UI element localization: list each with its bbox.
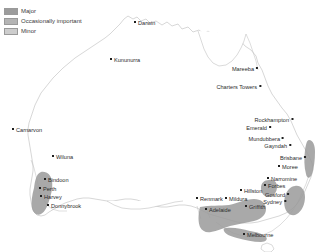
map-graphic xyxy=(0,0,325,252)
city-label: Melbourne xyxy=(247,232,273,238)
city-gosford: Gosford xyxy=(265,191,289,198)
city-marker-dot xyxy=(269,126,271,128)
city-label: Kununurra xyxy=(114,57,140,63)
city-griffith: Griffith xyxy=(245,203,265,210)
city-marker-dot xyxy=(196,197,198,199)
city-brisbane: Brisbane xyxy=(280,154,306,161)
city-label: Hillston xyxy=(244,188,262,194)
city-label: Moree xyxy=(282,164,298,170)
city-carnarvon: Carnarvon xyxy=(12,126,42,133)
city-sydney: Sydney xyxy=(263,198,286,205)
legend-label-major: Major xyxy=(21,8,36,15)
australia-map: Major Occasionally important Minor Darwi… xyxy=(0,0,325,252)
city-marker-dot xyxy=(256,67,258,69)
city-label: Donnybrook xyxy=(51,203,81,209)
city-marker-dot xyxy=(291,118,293,120)
city-label: Mareeba xyxy=(232,66,254,72)
city-kununurra: Kununurra xyxy=(110,56,140,63)
city-marker-dot xyxy=(304,156,306,158)
legend-label-minor: Minor xyxy=(21,28,36,35)
city-rockhampton: Rockhampton xyxy=(254,116,293,123)
legend-item-major: Major xyxy=(4,7,82,16)
city-label: Wiluna xyxy=(56,154,73,160)
legend-label-occasionally-important: Occasionally important xyxy=(21,18,82,25)
city-marker-dot xyxy=(264,184,266,186)
city-label: Harvey xyxy=(44,194,62,200)
city-marker-dot xyxy=(287,193,289,195)
city-marker-dot xyxy=(289,144,291,146)
city-label: Darwin xyxy=(138,20,155,26)
legend-swatch-minor xyxy=(4,28,18,35)
city-label: Gayndah xyxy=(264,143,287,149)
city-marker-dot xyxy=(282,137,284,139)
city-marker-dot xyxy=(245,205,247,207)
city-mundubbera: Mundubbera xyxy=(249,135,284,142)
city-label: Brisbane xyxy=(280,155,302,161)
legend-swatch-major xyxy=(4,8,18,15)
city-mareeba: Mareeba xyxy=(232,65,258,72)
city-marker-dot xyxy=(243,233,245,235)
city-label: Rockhampton xyxy=(254,117,289,123)
city-narromine: Narromine xyxy=(267,175,297,182)
city-donnybrook: Donnybrook xyxy=(47,202,81,209)
city-mildura: Mildura xyxy=(225,195,247,202)
city-label: Renmark xyxy=(200,196,223,202)
legend: Major Occasionally important Minor xyxy=(4,7,82,37)
city-label: Narromine xyxy=(271,176,297,182)
city-charters-towers: Charters Towers xyxy=(216,83,261,90)
city-marker-dot xyxy=(44,178,46,180)
city-label: Charters Towers xyxy=(216,84,257,90)
city-label: Emerald xyxy=(246,125,267,131)
city-bindoon: Bindoon xyxy=(44,176,69,183)
city-marker-dot xyxy=(47,204,49,206)
city-harvey: Harvey xyxy=(40,193,62,200)
city-melbourne: Melbourne xyxy=(243,231,273,238)
city-label: Bindoon xyxy=(48,177,69,183)
tasmania xyxy=(261,243,274,252)
city-forbes: Forbes xyxy=(264,182,285,189)
city-label: Sydney xyxy=(263,199,282,205)
city-emerald: Emerald xyxy=(246,124,271,131)
city-marker-dot xyxy=(205,208,207,210)
city-marker-dot xyxy=(259,85,261,87)
city-darwin: Darwin xyxy=(134,19,155,26)
city-label: Mundubbera xyxy=(249,136,280,142)
city-marker-dot xyxy=(40,195,42,197)
city-marker-dot xyxy=(267,177,269,179)
city-perth: Perth xyxy=(39,185,56,192)
city-adelaide: Adelaide xyxy=(205,206,231,213)
city-label: Mildura xyxy=(229,196,247,202)
city-marker-dot xyxy=(278,165,280,167)
legend-item-minor: Minor xyxy=(4,27,82,36)
city-marker-dot xyxy=(52,155,54,157)
city-label: Griffith xyxy=(249,204,265,210)
city-renmark: Renmark xyxy=(196,195,223,202)
city-marker-dot xyxy=(240,189,242,191)
city-label: Perth xyxy=(43,186,56,192)
legend-item-occasionally-important: Occasionally important xyxy=(4,17,82,26)
city-marker-dot xyxy=(12,128,14,130)
city-wiluna: Wiluna xyxy=(52,153,73,160)
city-moree: Moree xyxy=(278,163,298,170)
city-marker-dot xyxy=(134,21,136,23)
legend-swatch-occasionally-important xyxy=(4,18,18,25)
city-marker-dot xyxy=(39,187,41,189)
city-marker-dot xyxy=(110,58,112,60)
city-marker-dot xyxy=(284,200,286,202)
city-label: Carnarvon xyxy=(16,127,42,133)
city-label: Gosford xyxy=(265,192,285,198)
city-label: Adelaide xyxy=(209,207,231,213)
city-gayndah: Gayndah xyxy=(264,142,291,149)
city-label: Forbes xyxy=(268,183,285,189)
city-hillston: Hillston xyxy=(240,187,262,194)
city-marker-dot xyxy=(225,197,227,199)
